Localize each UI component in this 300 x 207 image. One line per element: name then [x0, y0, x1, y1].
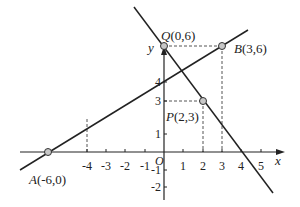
- x-tick-label: 2: [200, 159, 206, 173]
- y-tick-label: 3: [155, 94, 161, 108]
- origin-label: O: [155, 154, 164, 168]
- x-tick-label: -2: [120, 159, 130, 173]
- coordinate-diagram: -4 -3 -2 -1 1 2 3 4 5 4 3 1 -1 -2 O x y …: [0, 0, 300, 207]
- point-label-Q: Q(0,6): [161, 28, 195, 43]
- point-Q: [161, 43, 168, 50]
- x-tick-label: -3: [101, 159, 111, 173]
- y-axis-label: y: [146, 40, 154, 55]
- point-P: [200, 98, 207, 105]
- point-label-A: A(-6,0): [28, 172, 66, 187]
- x-tick-label: 3: [219, 159, 225, 173]
- x-tick-label: -4: [82, 159, 92, 173]
- x-tick-label: -1: [140, 159, 150, 173]
- point-A: [45, 149, 52, 156]
- x-tick-label: 5: [258, 159, 264, 173]
- y-tick-label: -2: [151, 180, 161, 194]
- point-B: [219, 43, 226, 50]
- point-label-P: P(2,3): [165, 109, 199, 124]
- y-tick-label: 1: [155, 127, 161, 141]
- point-label-B: B(3,6): [234, 41, 267, 56]
- x-tick-label: 4: [238, 159, 244, 173]
- line-AB: [20, 30, 248, 170]
- x-tick-label: 1: [180, 159, 186, 173]
- x-axis-label: x: [274, 153, 281, 168]
